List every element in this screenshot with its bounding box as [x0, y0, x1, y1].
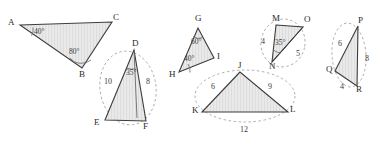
angle-label-a: 40°: [34, 28, 45, 36]
side-label-pq: 6: [338, 40, 342, 48]
side-label-mn: 4: [261, 38, 265, 46]
side-label-kl: 12: [240, 126, 248, 134]
angle-label-h: 40°: [184, 55, 195, 63]
vertex-label-b: B: [79, 70, 85, 79]
triangle-def: [95, 47, 161, 128]
side-label-jk: 6: [211, 83, 215, 91]
vertex-label-r: R: [356, 85, 362, 94]
angle-label-n: 35°: [275, 39, 286, 47]
angle-label-b: 80°: [69, 48, 80, 56]
vertex-label-h: H: [169, 70, 176, 79]
angle-label-g: 60°: [191, 38, 202, 46]
vertex-label-c: C: [113, 13, 119, 22]
triangle-pqr: [330, 22, 368, 88]
triangle-jkl-shape: [202, 72, 288, 112]
vertex-label-d: D: [132, 39, 139, 48]
figure-canvas: [0, 0, 380, 146]
side-label-df: 8: [146, 78, 150, 86]
vertex-label-n: N: [269, 62, 276, 71]
angle-label-d: 35°: [126, 69, 137, 77]
side-label-de: 10: [104, 78, 112, 86]
side-label-jl: 9: [268, 83, 272, 91]
vertex-label-a: A: [8, 18, 15, 27]
vertex-label-q: Q: [326, 65, 333, 74]
side-label-pr: 8: [365, 55, 369, 63]
triangle-ghi-shape: [179, 28, 214, 72]
vertex-label-f: F: [143, 122, 148, 131]
vertex-label-k: K: [192, 106, 199, 115]
vertex-label-p: P: [358, 16, 363, 25]
triangle-ghi: [179, 28, 214, 73]
triangle-pqr-shape: [335, 26, 358, 86]
triangle-jkl: [195, 70, 295, 122]
vertex-label-o: O: [304, 15, 311, 24]
vertex-label-g: G: [195, 14, 202, 23]
vertex-label-m: M: [272, 14, 280, 23]
vertex-label-i: I: [217, 52, 220, 61]
side-label-no: 5: [296, 50, 300, 58]
vertex-label-e: E: [94, 118, 100, 127]
vertex-label-l: L: [290, 105, 296, 114]
side-label-qr: 4: [340, 83, 344, 91]
geometry-figure: A B C D E F G H I J K L M N O P Q R 40° …: [0, 0, 380, 146]
vertex-label-j: J: [238, 61, 242, 70]
